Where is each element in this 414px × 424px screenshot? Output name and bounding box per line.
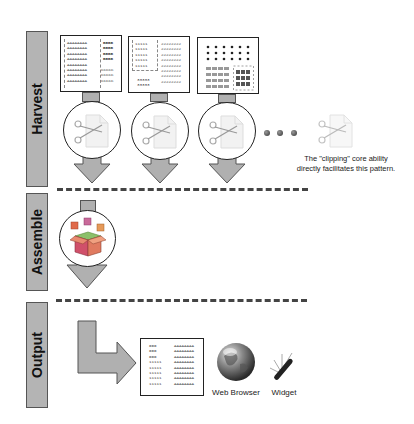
clipping-caption: The "clipping" core ability directly fac… (276, 154, 414, 174)
phase-label-output: Output (29, 332, 45, 378)
clip-region-bracket (132, 40, 158, 71)
clip-region-bracket (64, 39, 101, 88)
globe-icon (216, 342, 256, 382)
web-browser-label: Web Browser (211, 388, 261, 397)
doc-line: CCCCC (101, 79, 114, 84)
output-l-arrow (77, 320, 141, 386)
doc-line: 33333 (137, 83, 150, 88)
ellipsis-dot (264, 130, 270, 136)
doc-line: 11111 (149, 360, 162, 365)
ellipsis-dot (291, 130, 297, 136)
doc-line: 11111 (149, 382, 162, 387)
doc2-col-b: 22222222 22222222 22222222 22222222 2222… (161, 42, 181, 85)
doc3-graphics (198, 38, 259, 94)
doc-line: AAAAAAAA (174, 382, 194, 387)
doc2-col-c: 33333 33333 (137, 78, 150, 89)
phase-label-harvest: Harvest (29, 83, 45, 134)
ellipsis-dot (277, 130, 283, 136)
output-doc-col-left: XXX XXX XXX 11111 11111 11111 11111 1111… (149, 344, 162, 387)
doc1-col-b: BBBB BBBB BBBB BBBB (103, 41, 113, 63)
widget-label: Widget (268, 388, 300, 397)
doc-line: BBBB (103, 57, 113, 62)
source-document-3 (197, 37, 259, 94)
source-document-1: AAAAAAAA AAAAAAAA AAAAAAAA AAAAAAAA AAAA… (60, 35, 122, 92)
source-document-2: 11111 11111 11111 11111 11111 22222222 2… (128, 36, 190, 93)
phase-separator-2 (56, 299, 307, 302)
doc-line: 22222222 (161, 58, 181, 63)
doc-line: 22222222 (161, 80, 181, 85)
caption-line-2: directly facilitates this pattern. (276, 164, 414, 174)
scissors-clip-icon (72, 113, 112, 149)
phase-bar-output: Output (26, 302, 48, 408)
phase-label-assemble: Assemble (29, 209, 45, 275)
scissors-clip-icon (140, 114, 180, 150)
harvest-stem-2 (150, 93, 168, 102)
doc-line: AAAAAAAA (174, 360, 194, 365)
clipping-ability-icon (316, 113, 356, 149)
harvest-down-arrow-1 (74, 155, 114, 187)
caption-line-1: The "clipping" core ability (276, 154, 414, 164)
assembly-box-icon (69, 218, 107, 260)
scissors-clip-icon (207, 114, 247, 150)
swiss-army-knife-icon (268, 350, 300, 382)
output-doc-col-right: AAAAAAAA AAAAAAAA AAAAAAAA AAAAAAAA AAAA… (174, 344, 194, 387)
phase-bar-assemble: Assemble (26, 193, 48, 291)
doc1-col-c: CCCCC CCCCC CCCCC (101, 68, 114, 84)
output-document: XXX XXX XXX 11111 11111 11111 11111 1111… (140, 338, 204, 396)
phase-separator-1 (57, 188, 308, 191)
phase-bar-harvest: Harvest (26, 31, 48, 187)
